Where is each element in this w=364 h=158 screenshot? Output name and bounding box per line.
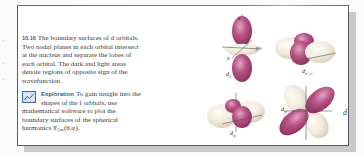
dyz-label: dyz (281, 106, 288, 114)
orbital-dyz: dyz (275, 81, 340, 143)
dx2-y2-label: dx²−y² (302, 68, 314, 76)
orbital-dxy: dxy (207, 93, 265, 138)
d-orbitals-illustration: z y x dz² dx²−y² dxy dyz (0, 0, 364, 158)
axis-y-label: y (255, 45, 259, 51)
axis-x-label: x (226, 55, 230, 61)
dzx-label-partial: d (343, 108, 347, 117)
orbital-dz2: z y x dz² (222, 14, 262, 82)
dz2-label: dz² (226, 71, 232, 79)
dxy-label: dxy (230, 130, 237, 138)
orbital-dx2-y2: dx²−y² (275, 33, 336, 76)
